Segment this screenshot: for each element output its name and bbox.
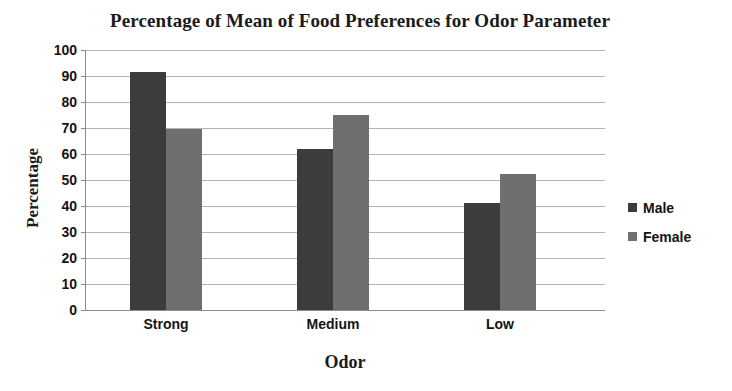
y-axis-tick-label: 90 [33,68,77,84]
y-axis-tick-label: 10 [33,276,77,292]
legend-swatch-icon [628,232,637,241]
y-axis-tick-label: 0 [33,302,77,318]
chart-title: Percentage of Mean of Food Preferences f… [60,10,660,32]
x-axis-tick-label: Strong [143,316,188,332]
legend-item-male[interactable]: Male [628,193,691,222]
y-axis-tick-label: 30 [33,224,77,240]
x-axis-tick-label: Medium [307,316,360,332]
y-axis-line [85,50,86,310]
bar-female-medium [333,115,369,310]
bar-chart: Percentage of Mean of Food Preferences f… [0,0,732,391]
legend-swatch-icon [628,203,637,212]
plot-area: 1009080706050403020100 StrongMediumLow [85,50,605,310]
y-axis-tick-label: 40 [33,198,77,214]
bar-female-low [500,174,536,311]
legend: MaleFemale [628,193,691,251]
x-axis-tick-label: Low [486,316,514,332]
bar-male-low [464,203,500,310]
x-axis-title: Odor [85,352,605,373]
y-axis-tick-label: 20 [33,250,77,266]
legend-item-label: Female [643,229,691,245]
gridline [85,310,605,311]
y-axis-tick-label: 50 [33,172,77,188]
legend-item-female[interactable]: Female [628,222,691,251]
y-axis-tick-label: 60 [33,146,77,162]
legend-item-label: Male [643,200,674,216]
y-axis-tick-label: 100 [33,42,77,58]
bar-male-strong [130,72,166,310]
y-axis-tick [81,310,85,311]
y-axis-tick-label: 80 [33,94,77,110]
bar-male-medium [297,149,333,310]
y-axis-tick-label: 70 [33,120,77,136]
gridline [85,50,605,51]
bar-female-strong [166,129,202,310]
